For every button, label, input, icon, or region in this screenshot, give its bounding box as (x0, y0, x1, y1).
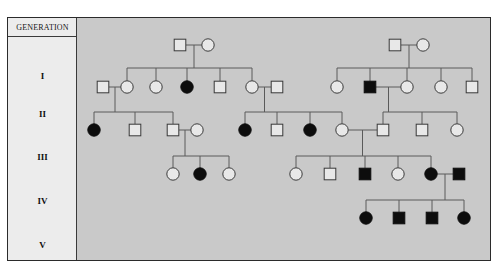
generation-label-i: I (8, 71, 77, 81)
pedigree-symbol-circle-unaffected (246, 81, 258, 93)
pedigree-symbol-square-unaffected (324, 168, 336, 180)
pedigree-canvas (77, 18, 490, 260)
pedigree-symbol-square-unaffected (214, 81, 226, 93)
pedigree-symbol-square-unaffected (167, 124, 179, 136)
pedigree-symbol-circle-unaffected (401, 81, 413, 93)
pedigree-symbol-circle-unaffected (167, 168, 179, 180)
pedigree-symbol-circle-affected (304, 124, 316, 136)
pedigree-symbol-circle-unaffected (336, 124, 348, 136)
generation-label-v: V (8, 240, 77, 250)
pedigree-symbol-square-unaffected (271, 124, 283, 136)
generation-label-column: GENERATION I II III IV V (8, 18, 77, 260)
pedigree-symbol-square-affected (426, 212, 438, 224)
generation-label-ii: II (8, 109, 77, 119)
generation-label-iv: IV (8, 196, 77, 206)
pedigree-symbol-circle-unaffected (121, 81, 133, 93)
pedigree-symbol-square-unaffected (416, 124, 428, 136)
pedigree-symbol-circle-affected (425, 168, 437, 180)
pedigree-symbol-circle-affected (239, 124, 251, 136)
pedigree-symbol-circle-unaffected (202, 39, 214, 51)
pedigree-symbol-square-affected (359, 168, 371, 180)
pedigree-symbol-circle-affected (360, 212, 372, 224)
generation-label-iii: III (8, 152, 77, 162)
pedigree-symbol-circle-unaffected (191, 124, 203, 136)
pedigree-symbol-circle-unaffected (392, 168, 404, 180)
pedigree-symbol-circle-affected (458, 212, 470, 224)
pedigree-symbol-square-affected (453, 168, 465, 180)
pedigree-symbol-circle-unaffected (331, 81, 343, 93)
pedigree-symbol-circle-affected (181, 81, 193, 93)
pedigree-diagram (77, 18, 490, 260)
pedigree-symbol-circle-unaffected (150, 81, 162, 93)
pedigree-symbol-circle-unaffected (435, 81, 447, 93)
pedigree-symbol-square-unaffected (466, 81, 478, 93)
pedigree-symbols (88, 39, 478, 224)
pedigree-symbol-square-unaffected (389, 39, 401, 51)
pedigree-symbol-square-unaffected (129, 124, 141, 136)
generation-column-header: GENERATION (8, 18, 77, 37)
pedigree-page: GENERATION I II III IV V (0, 0, 498, 276)
pedigree-symbol-circle-affected (88, 124, 100, 136)
pedigree-symbol-circle-affected (194, 168, 206, 180)
pedigree-symbol-circle-unaffected (451, 124, 463, 136)
pedigree-symbol-square-unaffected (174, 39, 186, 51)
pedigree-symbol-square-unaffected (271, 81, 283, 93)
pedigree-symbol-square-unaffected (377, 124, 389, 136)
pedigree-symbol-square-affected (364, 81, 376, 93)
pedigree-symbol-circle-unaffected (223, 168, 235, 180)
pedigree-symbol-circle-unaffected (290, 168, 302, 180)
pedigree-symbol-square-unaffected (97, 81, 109, 93)
figure-frame: GENERATION I II III IV V (7, 17, 491, 261)
pedigree-symbol-square-affected (393, 212, 405, 224)
pedigree-symbol-circle-unaffected (417, 39, 429, 51)
